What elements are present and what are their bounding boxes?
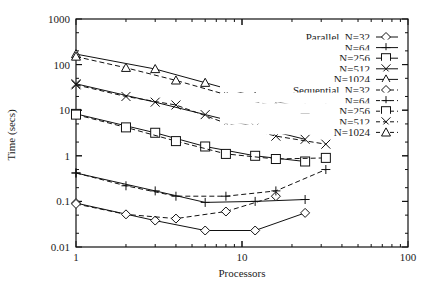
- square-marker-icon: [121, 123, 130, 132]
- square-marker-icon: [271, 155, 280, 164]
- diamond-marker-icon: [301, 208, 310, 217]
- square-marker-icon: [321, 153, 330, 162]
- series-sequential-n-64: [72, 165, 331, 201]
- cross-marker-icon: [321, 140, 330, 149]
- plus-marker-icon: [151, 186, 160, 195]
- series-parallel-n-64: [72, 168, 310, 206]
- square-marker-icon: [251, 151, 260, 160]
- y-tick-label: 1: [65, 150, 71, 162]
- legend: Parallel, N=32N=64N=256N=512N=1024Sequen…: [220, 29, 402, 138]
- diamond-marker-icon: [251, 226, 260, 235]
- x-axis-title: Processors: [218, 267, 265, 279]
- square-marker-icon: [221, 149, 230, 158]
- plus-marker-icon: [201, 198, 210, 207]
- plus-marker-icon: [72, 168, 81, 177]
- x-tick-label: 1: [73, 251, 79, 263]
- plus-marker-icon: [221, 192, 230, 201]
- plus-marker-icon: [271, 186, 280, 195]
- legend-label: N=1024: [334, 126, 371, 138]
- y-tick-label: 0.1: [56, 195, 70, 207]
- y-tick-label: 10: [59, 104, 71, 116]
- plus-marker-icon: [301, 195, 310, 204]
- diamond-marker-icon: [171, 214, 180, 223]
- plus-marker-icon: [321, 165, 330, 174]
- square-marker-icon: [72, 110, 81, 119]
- y-axis-title: Time (secs): [5, 109, 18, 161]
- log-log-line-chart: 1101000.010.11101001000 Parallel, N=32N=…: [0, 0, 430, 286]
- diamond-marker-icon: [201, 226, 210, 235]
- square-marker-icon: [171, 137, 180, 146]
- y-tick-label: 1000: [48, 13, 71, 25]
- plus-marker-icon: [171, 192, 180, 201]
- plus-marker-icon: [121, 181, 130, 190]
- x-tick-label: 10: [237, 251, 249, 263]
- diamond-marker-icon: [72, 199, 81, 208]
- cross-marker-icon: [171, 101, 180, 110]
- legend-entry: N=1024: [220, 124, 402, 138]
- x-tick-label: 100: [400, 251, 417, 263]
- diamond-marker-icon: [221, 207, 230, 216]
- diamond-marker-icon: [121, 210, 130, 219]
- cross-marker-icon: [301, 135, 310, 144]
- y-tick-label: 0.01: [51, 241, 70, 253]
- y-tick-label: 100: [54, 59, 71, 71]
